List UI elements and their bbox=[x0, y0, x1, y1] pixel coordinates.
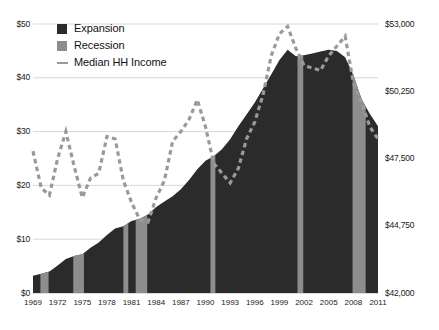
y-axis-left-tick: $50 bbox=[0, 20, 30, 29]
expansion-swatch-icon bbox=[57, 24, 67, 34]
y-axis-left-tick: $10 bbox=[0, 235, 30, 244]
y-axis-right-tick: $42,000 bbox=[385, 289, 431, 298]
y-axis-right-tick: $53,000 bbox=[385, 20, 431, 29]
recession-band bbox=[353, 20, 366, 297]
expansion-area bbox=[33, 50, 378, 293]
y-axis-right-tick: $44,750 bbox=[385, 221, 431, 230]
y-axis-left-tick: $0 bbox=[0, 289, 30, 298]
legend-label-expansion: Expansion bbox=[74, 23, 124, 34]
y-axis-right-tick: $50,250 bbox=[385, 87, 431, 96]
chart-container: Expansion Recession Median HH Income $0$… bbox=[0, 0, 439, 330]
legend-item-recession: Recession bbox=[57, 37, 167, 54]
chart-legend: Expansion Recession Median HH Income bbox=[57, 20, 167, 71]
recession-swatch-icon bbox=[57, 41, 67, 51]
legend-item-median-hh-income: Median HH Income bbox=[57, 54, 167, 71]
recession-band bbox=[40, 20, 48, 297]
legend-item-expansion: Expansion bbox=[57, 20, 167, 37]
y-axis-left-tick: $30 bbox=[0, 127, 30, 136]
legend-label-median-hh-income: Median HH Income bbox=[74, 57, 167, 68]
y-axis-left-tick: $40 bbox=[0, 73, 30, 82]
dashed-line-icon bbox=[57, 62, 68, 64]
legend-label-recession: Recession bbox=[74, 40, 124, 51]
x-axis-tick: 2011 bbox=[363, 299, 393, 307]
y-axis-right-tick: $47,500 bbox=[385, 154, 431, 163]
y-axis-left-tick: $20 bbox=[0, 181, 30, 190]
